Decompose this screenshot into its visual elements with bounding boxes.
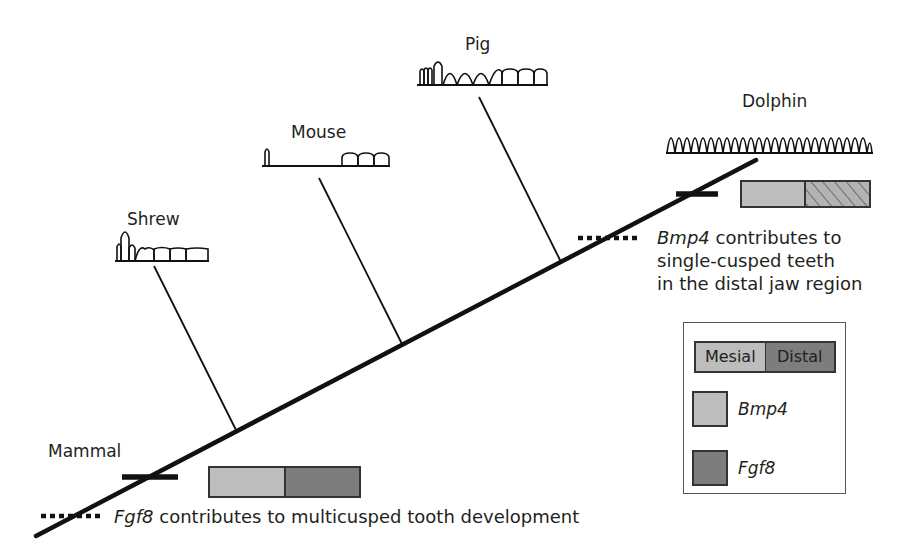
- mammal-expression-bar: [209, 467, 360, 497]
- legend-mesial-distal-bar: Mesial Distal: [694, 341, 836, 373]
- legend-box: Mesial Distal Bmp4 Fgf8: [683, 322, 846, 494]
- legend-bmp4-label: Bmp4: [738, 399, 788, 419]
- branch-shrew: [154, 266, 236, 430]
- bmp4-note-line2: single-cusped teeth: [657, 249, 862, 272]
- shrew-dentition-icon: [115, 232, 209, 261]
- dolphin-expression-bar: [741, 181, 870, 207]
- label-mammal: Mammal: [48, 441, 121, 461]
- fgf8-note: Fgf8 contributes to multicusped tooth de…: [114, 505, 579, 528]
- legend-bmp4-swatch: [692, 391, 728, 427]
- bmp4-note: Bmp4 contributes to single-cusped teeth …: [657, 226, 862, 295]
- legend-mesial-label: Mesial: [696, 343, 766, 371]
- legend-fgf8-label: Fgf8: [738, 458, 775, 478]
- pig-dentition-icon: [417, 62, 548, 85]
- legend-fgf8-swatch: [692, 450, 728, 486]
- fgf8-gene-name: Fgf8: [114, 506, 154, 527]
- legend-distal-label: Distal: [766, 343, 835, 371]
- fgf8-note-text: contributes to multicusped tooth develop…: [154, 506, 580, 527]
- label-shrew: Shrew: [127, 209, 180, 229]
- label-pig: Pig: [465, 34, 490, 54]
- label-dolphin: Dolphin: [742, 91, 807, 111]
- dolphin-dentition-icon: [666, 138, 873, 153]
- bmp4-gene-name: Bmp4: [657, 227, 710, 248]
- bmp4-note-line3: in the distal jaw region: [657, 272, 862, 295]
- branch-pig: [479, 97, 561, 262]
- mouse-dentition-icon: [262, 149, 390, 166]
- branch-mouse: [319, 178, 402, 344]
- bmp4-note-line1: contributes to: [710, 227, 842, 248]
- label-mouse: Mouse: [291, 122, 346, 142]
